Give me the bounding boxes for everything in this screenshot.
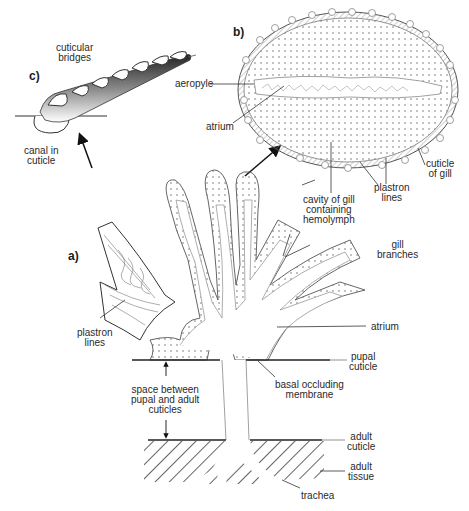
label-gill-branches: gill branches: [377, 240, 418, 260]
panel-label-c: c): [29, 69, 40, 83]
label-cavity-of-gill: cavity of gill containing hemolymph: [303, 195, 355, 225]
label-atrium-a: atrium: [371, 322, 399, 332]
label-adult-cuticle: adult cuticle: [347, 432, 375, 452]
panel-b-illustration: [210, 9, 459, 194]
label-adult-tissue: adult tissue: [348, 462, 374, 482]
label-aeropyle: aeropyle: [175, 79, 213, 89]
label-plastron-lines-b: plastron lines: [374, 183, 410, 203]
panel-label-a: a): [68, 249, 79, 263]
arrow-to-panel-c: [80, 135, 92, 168]
label-plastron-lines-a: plastron lines: [77, 328, 113, 348]
label-cuticle-of-gill: cuticle of gill: [426, 159, 454, 179]
label-basal-occluding-membrane: basal occluding membrane: [275, 380, 344, 400]
panel-label-b: b): [233, 25, 244, 39]
label-trachea: trachea: [301, 491, 334, 501]
label-pupal-cuticle: pupal cuticle: [349, 352, 377, 372]
label-canal-in-cuticle: canal in cuticle: [24, 146, 58, 166]
label-atrium-b: atrium: [206, 122, 234, 132]
label-space-between-cuticles: space between pupal and adult cuticles: [131, 385, 199, 415]
label-cuticular-bridges: cuticular bridges: [56, 43, 93, 63]
panel-c-illustration: [15, 52, 196, 133]
